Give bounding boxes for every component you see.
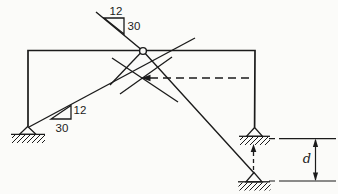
slope-top-run-label: 12 [110,5,123,17]
diagram-svg: 12 30 12 30 d [0,0,338,194]
support-hatch [12,135,45,143]
slope-top-rise-label: 30 [128,20,141,32]
dimension-label-d: d [303,151,311,166]
slope-bottom-run-label: 30 [56,122,69,134]
pin-circle [140,48,147,55]
slope-bottom-rise-label: 12 [74,104,87,116]
frame-diagram: 12 30 12 30 d [0,0,338,194]
support-hatch [239,183,271,191]
support-hatch [240,137,270,145]
background [0,0,338,194]
